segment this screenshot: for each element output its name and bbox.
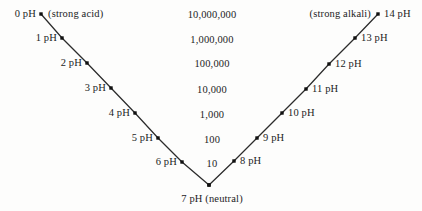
ph-marker-1-ph	[60, 36, 63, 39]
ph-label-12-ph: 12 pH	[335, 59, 362, 70]
ph-label-4-ph: 4 pH	[109, 108, 130, 119]
concentration-value-1: 1,000,000	[190, 35, 233, 46]
strong-acid-note: (strong acid)	[48, 9, 103, 20]
ph-line-acid-arm	[41, 14, 209, 185]
ph-marker-9-ph	[255, 136, 258, 139]
ph-marker-11-ph	[304, 87, 307, 90]
ph-label-3-ph: 3 pH	[85, 83, 106, 94]
ph-marker-12-ph	[327, 62, 330, 65]
ph-label-11-ph: 11 pH	[312, 84, 338, 95]
ph-marker-3-ph	[109, 86, 112, 89]
ph-label-8-ph: 8 pH	[240, 156, 261, 167]
concentration-value-2: 100,000	[194, 59, 229, 70]
ph-marker-13-ph	[353, 36, 356, 39]
ph-marker-5-ph	[156, 136, 159, 139]
ph-marker-14-ph	[376, 12, 379, 15]
ph-label-0-ph: 0 pH	[15, 9, 36, 20]
ph-marker-10-ph	[280, 111, 283, 114]
ph-marker-4-ph	[133, 111, 136, 114]
strong-alkali-note: (strong alkali)	[310, 9, 371, 20]
concentration-value-6: 10	[207, 159, 218, 170]
ph-label-2-ph: 2 pH	[61, 58, 82, 69]
ph-label-13-ph: 13 pH	[361, 33, 388, 44]
ph-marker-0-ph	[39, 12, 42, 15]
ph-scale-plot	[0, 0, 422, 211]
ph-label-10-ph: 10 pH	[288, 108, 315, 119]
ph-label-5-ph: 5 pH	[132, 133, 153, 144]
ph-label-6-ph: 6 pH	[156, 157, 177, 168]
neutral-label: 7 pH (neutral)	[181, 194, 243, 205]
ph-marker-7-ph	[207, 183, 210, 186]
ph-label-14-ph: 14 pH	[384, 9, 411, 20]
ph-marker-6-ph	[180, 160, 183, 163]
concentration-value-5: 100	[204, 135, 220, 146]
ph-marker-2-ph	[85, 61, 88, 64]
concentration-value-4: 1,000	[200, 110, 224, 121]
concentration-value-3: 10,000	[197, 85, 227, 96]
concentration-value-0: 10,000,000	[188, 10, 237, 21]
ph-scale-diagram: 0 pH1 pH2 pH3 pH4 pH5 pH6 pH 8 pH9 pH10 …	[0, 0, 422, 211]
ph-label-1-ph: 1 pH	[36, 33, 57, 44]
ph-label-9-ph: 9 pH	[263, 133, 284, 144]
ph-marker-8-ph	[232, 159, 235, 162]
